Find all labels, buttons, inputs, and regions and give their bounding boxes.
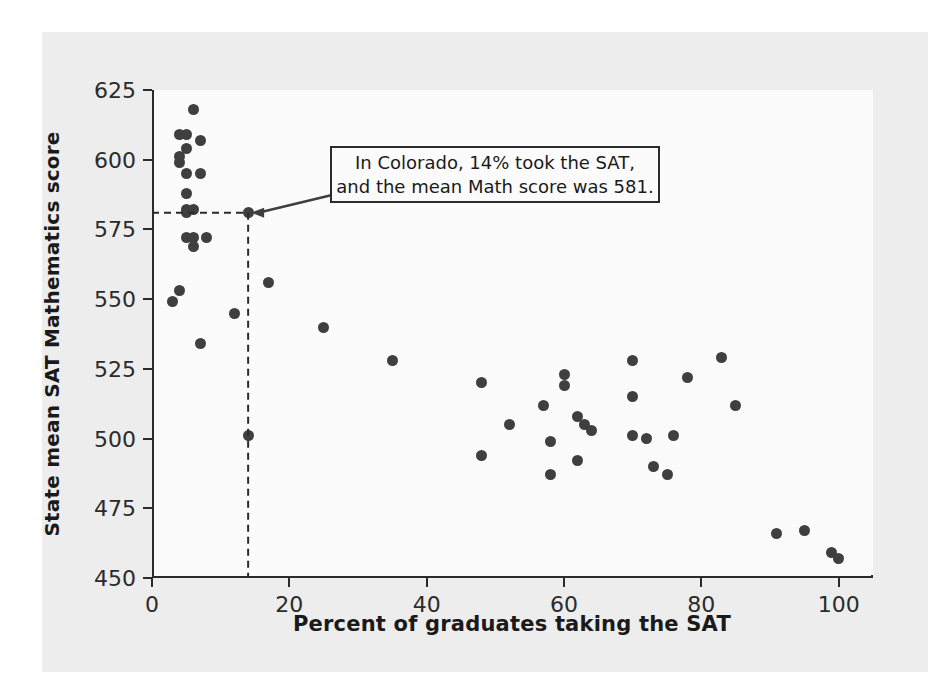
y-tick-mark: [143, 89, 152, 91]
y-axis-top-cap: [152, 90, 154, 93]
scatter-point: [476, 450, 487, 461]
y-tick-mark: [143, 159, 152, 161]
scatter-point: [188, 104, 199, 115]
scatter-point: [174, 157, 185, 168]
y-tick-mark: [143, 507, 152, 509]
scatter-point: [799, 525, 810, 536]
annotation-line-1: In Colorado, 14% took the SAT,: [355, 151, 635, 174]
x-tick-mark: [700, 578, 702, 587]
scatter-point: [586, 425, 597, 436]
x-axis-title: Percent of graduates taking the SAT: [293, 612, 731, 636]
scatter-point: [181, 129, 192, 140]
y-tick-mark: [143, 438, 152, 440]
scatter-point: [243, 430, 254, 441]
y-tick-label: 625: [0, 78, 136, 103]
x-axis-right-cap: [871, 575, 873, 578]
scatter-point: [559, 380, 570, 391]
scatter-point: [641, 433, 652, 444]
figure-root: 450475500525550575600625 020406080100 St…: [0, 0, 946, 686]
x-tick-mark: [151, 578, 153, 587]
y-axis-title: State mean SAT Mathematics score: [40, 131, 64, 536]
scatter-point: [243, 207, 254, 218]
scatter-point: [682, 372, 693, 383]
scatter-point: [648, 461, 659, 472]
y-tick-mark: [143, 228, 152, 230]
scatter-point: [504, 419, 515, 430]
y-tick-label: 550: [0, 287, 136, 312]
scatter-point: [545, 436, 556, 447]
x-tick-mark: [563, 578, 565, 587]
x-tick-mark: [288, 578, 290, 587]
x-tick-mark: [838, 578, 840, 587]
y-tick-label: 525: [0, 356, 136, 381]
y-tick-label: 600: [0, 147, 136, 172]
x-tick-label: 0: [145, 592, 159, 617]
annotation-callout: In Colorado, 14% took the SAT, and the m…: [330, 146, 660, 203]
scatter-point: [229, 308, 240, 319]
scatter-point: [538, 400, 549, 411]
x-tick-label: 100: [818, 592, 860, 617]
scatter-point: [195, 338, 206, 349]
scatter-point: [181, 168, 192, 179]
x-tick-mark: [426, 578, 428, 587]
y-tick-label: 575: [0, 217, 136, 242]
scatter-point: [730, 400, 741, 411]
scatter-point: [318, 322, 329, 333]
scatter-point: [195, 135, 206, 146]
scatter-point: [188, 241, 199, 252]
scatter-point: [387, 355, 398, 366]
annotation-line-2: and the mean Math score was 581.: [336, 175, 653, 198]
scatter-point: [195, 168, 206, 179]
scatter-point: [662, 469, 673, 480]
scatter-point: [572, 411, 583, 422]
y-tick-label: 450: [0, 566, 136, 591]
y-tick-mark: [143, 298, 152, 300]
scatter-point: [559, 369, 570, 380]
y-tick-label: 475: [0, 496, 136, 521]
scatter-point: [181, 188, 192, 199]
y-tick-label: 500: [0, 426, 136, 451]
y-tick-mark: [143, 368, 152, 370]
